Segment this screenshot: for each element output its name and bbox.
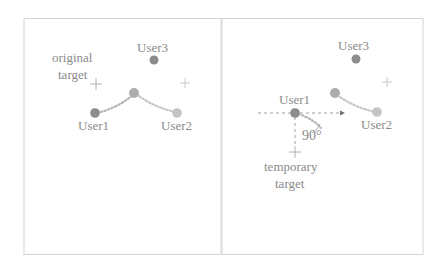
left-user1-dot	[90, 108, 100, 118]
right-cross-icon	[382, 77, 392, 87]
left-path-user1-center	[97, 94, 134, 113]
right-user2-dot	[372, 107, 382, 117]
right-center-dot	[330, 88, 340, 98]
left-user3-dot	[150, 56, 159, 65]
right-user2-label: User2	[361, 117, 392, 132]
left-cross-icon	[180, 78, 190, 88]
left-panel: User3 original target User1 User2	[24, 19, 221, 255]
right-user3-dot	[352, 55, 361, 64]
left-center-dot	[129, 88, 139, 98]
left-user2-label: User2	[161, 118, 192, 133]
right-angle-label: 90°	[302, 128, 322, 143]
left-path-center-user2	[136, 94, 176, 112]
left-original-label-line1: original	[52, 50, 93, 65]
left-user3-label: User3	[137, 40, 168, 55]
right-user1-label: User1	[279, 92, 310, 107]
right-temporary-label-line2: target	[275, 176, 305, 191]
right-user3-label: User3	[338, 38, 369, 53]
right-path-center-user2	[337, 95, 376, 112]
right-panel: User3 User1 User2 90° temporary target	[222, 19, 423, 255]
diagram: User3 original target User1 User2	[0, 0, 444, 269]
left-original-target-cross-icon	[90, 78, 102, 90]
right-user1-dot	[290, 108, 300, 118]
right-panel-frame	[222, 19, 423, 255]
right-temporary-label-line1: temporary	[264, 159, 318, 174]
right-temporary-target-cross-icon	[289, 146, 301, 158]
left-original-label-line2: target	[58, 67, 88, 82]
right-path-user1-rotated	[298, 114, 321, 128]
left-user2-dot	[172, 108, 182, 118]
left-user1-label: User1	[78, 118, 109, 133]
right-axis-arrow-icon	[340, 111, 345, 116]
